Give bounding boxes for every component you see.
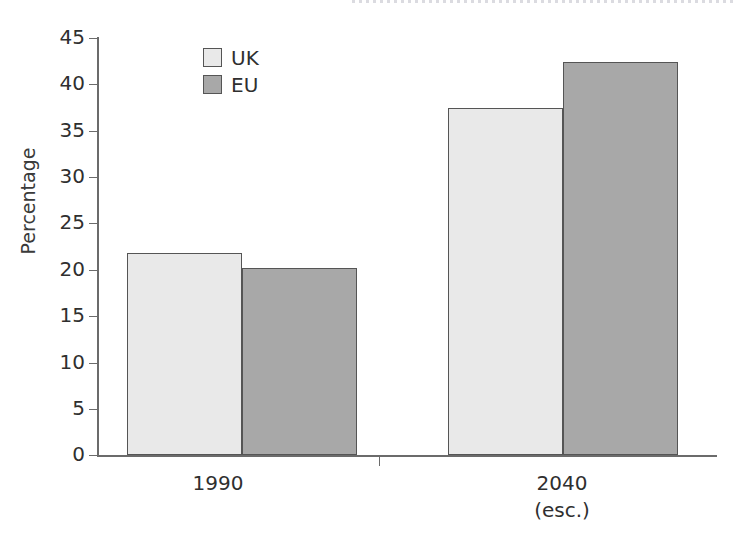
bar-uk-1990 [127,253,242,455]
y-axis-line [97,37,99,456]
y-tick-label-35: 35 [43,120,85,140]
x-group-label-2040-main: 2040 [537,471,588,495]
y-tick-30 [89,177,98,178]
y-tick-label-10: 10 [43,352,85,372]
y-tick-label-0: 0 [43,444,85,464]
legend-label-uk: UK [231,48,259,68]
bar-eu-2040 [563,62,678,455]
y-tick-5 [89,409,98,410]
y-tick-40 [89,84,98,85]
y-tick-label-5: 5 [43,398,85,418]
y-tick-label-30: 30 [43,166,85,186]
bar-uk-2040 [448,108,563,456]
y-tick-25 [89,223,98,224]
y-tick-label-40: 40 [43,73,85,93]
y-axis-title: Percentage [17,126,39,276]
y-tick-15 [89,316,98,317]
legend-item-eu: EU [203,71,259,98]
x-group-label-1990: 1990 [118,470,318,497]
legend-item-uk: UK [203,44,259,71]
y-tick-label-20: 20 [43,259,85,279]
x-group-label-1990-main: 1990 [193,471,244,495]
y-tick-20 [89,270,98,271]
plot-area: Percentage 45 40 35 30 25 20 15 [0,0,737,542]
x-axis-line [97,455,717,457]
y-tick-label-25: 25 [43,212,85,232]
x-tick-divider [379,456,380,466]
legend-label-eu: EU [231,75,258,95]
y-tick-label-45: 45 [43,27,85,47]
x-group-label-2040-sub: (esc.) [462,497,662,524]
bar-chart-figure: Percentage 45 40 35 30 25 20 15 [0,0,737,542]
y-tick-45 [89,38,98,39]
legend-swatch-eu-icon [203,75,222,94]
y-tick-35 [89,131,98,132]
y-tick-0 [89,455,98,456]
bar-eu-1990 [242,268,357,455]
legend: UK EU [203,44,259,98]
legend-swatch-uk-icon [203,48,222,67]
x-group-label-2040: 2040 (esc.) [462,470,662,524]
y-tick-label-15: 15 [43,305,85,325]
y-tick-10 [89,363,98,364]
